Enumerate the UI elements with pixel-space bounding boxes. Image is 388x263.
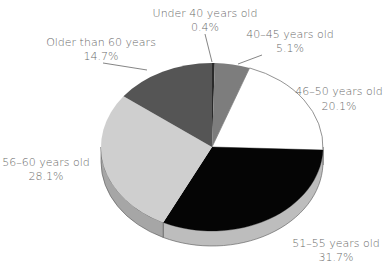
label-pct: 28.1%: [29, 170, 64, 183]
label-pct: 5.1%: [276, 42, 304, 55]
label-name: 56–60 years old: [2, 156, 90, 169]
label-51-55: 51–55 years old 31.7%: [292, 237, 380, 263]
label-name: Older than 60 years: [46, 36, 156, 49]
label-pct: 14.7%: [84, 50, 119, 63]
label-name: 51–55 years old: [292, 237, 380, 250]
label-name: 40–45 years old: [246, 28, 334, 41]
label-older-60: Older than 60 years 14.7%: [46, 36, 156, 63]
leader-line: [238, 55, 262, 64]
label-pct: 31.7%: [319, 251, 354, 263]
leader-line: [103, 63, 147, 70]
label-pct: 20.1%: [322, 100, 357, 113]
label-name: Under 40 years old: [153, 7, 258, 20]
label-name: 46–50 years old: [295, 85, 383, 98]
pie-chart: Under 40 years old 0.4% 40–45 years old …: [0, 0, 388, 263]
label-56-60: 56–60 years old 28.1%: [2, 156, 90, 183]
label-40-45: 40–45 years old 5.1%: [246, 28, 334, 55]
leader-line: [205, 34, 212, 62]
label-under-40: Under 40 years old 0.4%: [153, 7, 258, 34]
label-pct: 0.4%: [191, 21, 219, 34]
pie-slices: [101, 63, 323, 231]
